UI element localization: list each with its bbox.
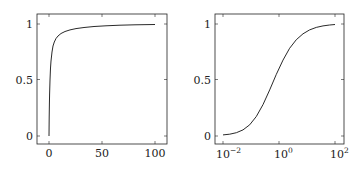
- right-ticks: [215, 14, 344, 144]
- right-ytick-1: 1: [204, 18, 211, 31]
- right-xtick-1e0: 100: [274, 146, 293, 161]
- left-ytick-1: 1: [26, 18, 33, 31]
- left-ytick-0-5: 0.5: [16, 74, 34, 87]
- figure: 0 0.5 1 0 50 100 0 0.5 1 10−2 100 102: [0, 0, 363, 171]
- right-xtick-1e2: 102: [330, 146, 349, 161]
- left-curve: [49, 25, 155, 137]
- left-xtick-100: 100: [145, 147, 166, 160]
- right-xtick-1e-2: 10−2: [216, 146, 241, 161]
- right-ytick-0-5: 0.5: [194, 74, 212, 87]
- right-plot: 0 0.5 1 10−2 100 102: [194, 14, 350, 161]
- right-plot-frame: [215, 14, 344, 144]
- left-plot: 0 0.5 1 0 50 100: [16, 14, 168, 160]
- left-xtick-50: 50: [95, 147, 109, 160]
- left-ticks: [37, 14, 167, 144]
- right-curve: [223, 25, 335, 135]
- left-xtick-0: 0: [46, 147, 53, 160]
- left-plot-frame: [37, 14, 167, 144]
- right-ytick-0: 0: [204, 130, 211, 143]
- left-ytick-0: 0: [26, 130, 33, 143]
